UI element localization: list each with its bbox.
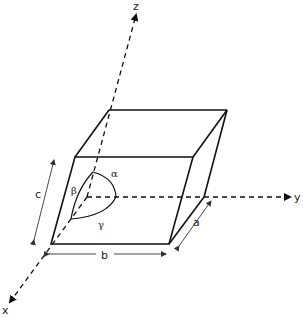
- x-axis: [10, 197, 87, 302]
- axes: [10, 15, 290, 302]
- b-edge-label: b: [101, 249, 108, 262]
- unit-cell-box: [51, 110, 227, 244]
- alpha-label: α: [111, 168, 118, 179]
- y-axis-label: y: [294, 191, 301, 204]
- angle-arcs: [71, 172, 116, 219]
- unit-cell-diagram: z y x c b a α β γ: [0, 0, 303, 318]
- gamma-label: γ: [98, 219, 104, 230]
- front-face: [51, 157, 193, 244]
- c-edge-label: c: [35, 188, 41, 201]
- x-axis-label: x: [2, 304, 9, 317]
- a-edge-label: a: [193, 216, 200, 229]
- beta-label: β: [71, 185, 77, 196]
- gamma-arc: [71, 197, 116, 219]
- z-axis-label: z: [133, 0, 139, 13]
